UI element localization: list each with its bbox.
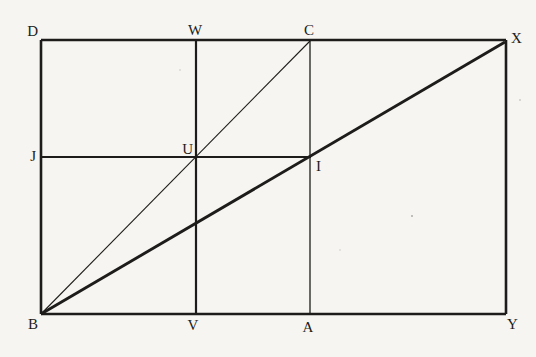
segment-B-C-diagonal <box>41 41 310 314</box>
point-label-V: V <box>188 317 199 333</box>
point-label-W: W <box>188 22 203 38</box>
point-label-X: X <box>511 30 522 46</box>
point-label-J: J <box>30 148 36 164</box>
scanned-page: D W C X J U I B V A Y <box>0 0 536 357</box>
geometry-figure: D W C X J U I B V A Y <box>0 0 536 357</box>
segment-B-X-diagonal <box>41 42 505 314</box>
point-label-I: I <box>316 158 321 174</box>
point-label-A: A <box>303 319 314 335</box>
point-label-U: U <box>182 141 193 157</box>
point-label-D: D <box>27 23 38 39</box>
point-label-B: B <box>28 316 38 332</box>
point-label-C: C <box>304 22 314 38</box>
point-label-Y: Y <box>507 316 518 332</box>
